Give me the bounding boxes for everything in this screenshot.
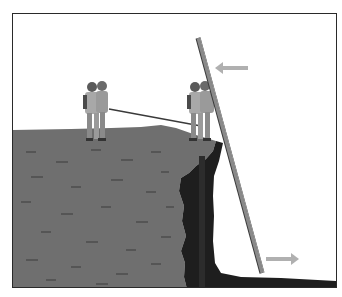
illustration-frame <box>12 13 337 288</box>
arrow-left-icon <box>215 62 248 74</box>
rope <box>109 109 201 126</box>
arrow-right-icon <box>266 253 299 265</box>
cliff-ladder-illustration <box>13 14 337 288</box>
cliff-shadow-band <box>199 156 205 288</box>
